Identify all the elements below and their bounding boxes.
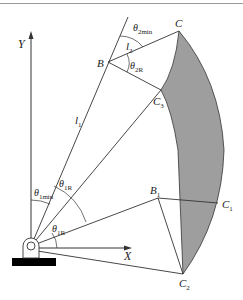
point-C2-label: C2 bbox=[179, 277, 190, 292]
theta1R-lower-label: θ1R bbox=[52, 223, 65, 237]
point-B1-label: B1 bbox=[150, 184, 161, 199]
theta2R-label: θ2R bbox=[130, 60, 143, 74]
point-B-label: B bbox=[97, 57, 104, 69]
link-l2-label: l2 bbox=[126, 40, 133, 55]
link-l1-label: l1 bbox=[75, 114, 82, 129]
link-l1-line bbox=[31, 17, 128, 246]
ground-base bbox=[12, 258, 56, 266]
y-axis-arrow-icon bbox=[29, 31, 34, 39]
arc-theta2R bbox=[127, 54, 129, 72]
workspace-region bbox=[161, 31, 224, 274]
workspace-diagram: Y X B C C3 B1 C1 C2 l1 l2 θ2min θ2R θ1mi… bbox=[0, 0, 243, 300]
line-OB1 bbox=[31, 198, 158, 246]
point-C3-label: C3 bbox=[153, 95, 164, 110]
line-OC3 bbox=[31, 90, 161, 246]
point-C-label: C bbox=[175, 17, 183, 29]
point-C1-label: C1 bbox=[222, 198, 233, 213]
theta1min-label: θ1min bbox=[34, 187, 54, 201]
y-axis-label: Y bbox=[18, 37, 26, 51]
theta2min-label: θ2min bbox=[133, 22, 153, 36]
line-B1C2 bbox=[158, 198, 183, 274]
arc-theta2min bbox=[120, 36, 143, 47]
x-axis-label: X bbox=[123, 249, 132, 263]
pivot-joint-icon bbox=[27, 242, 35, 250]
